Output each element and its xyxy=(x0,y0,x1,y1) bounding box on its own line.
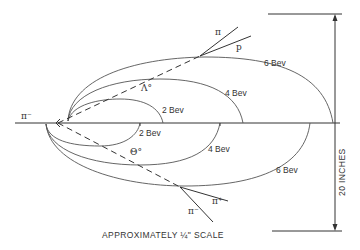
scale-caption: APPROXIMATELY ¼" SCALE xyxy=(102,230,224,240)
lambda-label: Λ° xyxy=(140,83,152,93)
pi-minus-decay-label: π⁻ xyxy=(188,206,199,216)
pi-plus-label: π⁺ xyxy=(212,196,223,206)
proton-track xyxy=(200,36,251,56)
lower-4bev-label: 4 Bev xyxy=(208,144,230,154)
upper-track-4bev xyxy=(68,79,243,123)
upper-track-6bev xyxy=(68,57,333,123)
theta-label: Θ° xyxy=(130,147,142,157)
upper-track-2bev xyxy=(68,99,163,123)
particle-track-diagram: π⁻ Λ° Θ° π p π⁺ π⁻ 2 Bev 4 Bev 6 Bev 2 B… xyxy=(0,0,360,250)
upper-2bev-label: 2 Bev xyxy=(162,105,184,115)
lower-6bev-label: 6 Bev xyxy=(276,165,298,175)
upper-4bev-label: 4 Bev xyxy=(225,88,247,98)
scale-arrow-down-icon xyxy=(333,224,338,231)
scale-bar-label: 20 INCHES xyxy=(337,148,347,196)
proton-label: p xyxy=(236,42,242,52)
upper-6bev-label: 6 Bev xyxy=(264,58,286,68)
pi-label: π xyxy=(215,27,221,37)
lower-track-6bev xyxy=(46,123,310,186)
incoming-pi-minus-label: π⁻ xyxy=(21,111,32,121)
scale-arrow-up-icon xyxy=(333,14,338,21)
lower-2bev-label: 2 Bev xyxy=(139,128,161,138)
